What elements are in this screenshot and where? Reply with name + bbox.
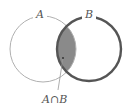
intersection-label: A∩B [41,93,67,106]
set-a-label: A [35,8,44,21]
set-b-label: B [84,8,93,21]
venn-diagram: A B A∩B [0,0,130,108]
